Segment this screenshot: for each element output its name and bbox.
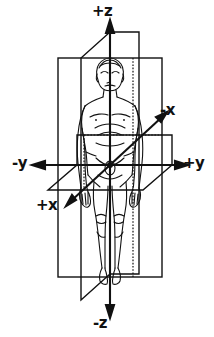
origin-point (107, 162, 113, 168)
right-foot (113, 268, 121, 284)
construction-dotted-lines (84, 58, 162, 277)
axis-label-z-positive: +z (92, 4, 112, 19)
axis-label-x-positive: +x (36, 198, 57, 213)
axis-label-y-positive: +y (183, 156, 204, 171)
anatomical-axes-figure: +z -z -y +y -x +x (0, 0, 214, 337)
z-negative-arrowhead (106, 305, 114, 318)
right-leg (112, 182, 127, 268)
left-leg (93, 182, 108, 268)
left-arm (77, 106, 88, 192)
y-negative-arrowhead (32, 161, 45, 169)
coordinate-axes (32, 20, 188, 318)
left-foot (100, 268, 108, 284)
z-positive-arrowhead (106, 20, 114, 33)
axis-label-y-negative: -y (12, 156, 27, 171)
axis-label-x-negative: -x (160, 103, 175, 118)
axis-label-z-negative: -z (93, 316, 107, 331)
diagram-canvas (0, 0, 214, 337)
right-arm (132, 106, 143, 192)
x-positive-arrowhead (66, 195, 76, 206)
